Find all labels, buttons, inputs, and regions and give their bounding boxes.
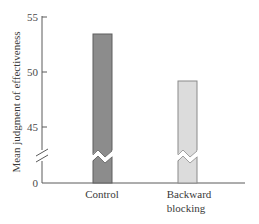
x-label-backward-blocking-line2: blocking (167, 202, 206, 214)
y-tick-label-0: 0 (33, 177, 39, 189)
bar-chart: 55 50 45 0 Control Backward blocking Mea… (0, 0, 259, 224)
y-tick-label-50: 50 (27, 66, 39, 78)
x-label-backward-blocking-line1: Backward (167, 188, 212, 200)
bar-backward-blocking (177, 81, 198, 183)
y-axis-label: Mean judgment of effectiveness (10, 31, 22, 172)
y-tick-label-55: 55 (27, 11, 39, 23)
x-label-control: Control (85, 188, 119, 200)
y-tick-label-45: 45 (27, 121, 39, 133)
axis-break-icon (36, 149, 48, 162)
bar-control (92, 34, 113, 183)
y-ticks (42, 17, 47, 127)
